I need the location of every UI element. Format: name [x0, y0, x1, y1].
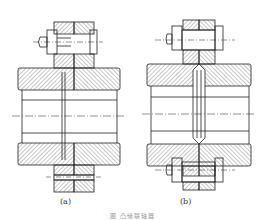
- subfigure-label-b: (b): [180, 197, 191, 206]
- coupling-a: [12, 22, 125, 192]
- coupling-drawing: [0, 0, 265, 220]
- subfigure-label-a: (a): [60, 197, 71, 206]
- coupling-b: [142, 20, 256, 190]
- figure-caption: 图 凸缘联轴器: [0, 211, 265, 220]
